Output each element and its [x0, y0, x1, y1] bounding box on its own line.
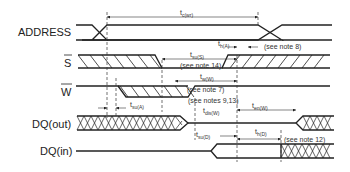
signal-label-w: W [61, 86, 72, 98]
signal-label-dq-out: DQ(out) [32, 118, 71, 130]
label-tsus: tsu(S) [190, 51, 204, 60]
note-8: (see note 8) [264, 43, 301, 51]
note-14: (see note 14) [180, 62, 221, 70]
label-tenw: ten(W) [252, 102, 268, 111]
label-tcwr: tc(wr) [180, 9, 193, 18]
waveform-dq-in [76, 144, 334, 158]
signal-label-dq-in: DQ(in) [40, 145, 72, 157]
label-thd: th(D) [255, 128, 267, 137]
note-7: (see note 7) [187, 86, 224, 94]
label-tsua: tsu(A) [130, 101, 144, 110]
label-tha: th(A) [218, 40, 230, 49]
label-tdisw: tdis(W) [203, 107, 220, 116]
note-12: (see note 12) [284, 136, 325, 144]
label-tsud: tsu(D) [196, 131, 211, 140]
waveform-dq-out [77, 116, 334, 130]
waveform-address [76, 25, 332, 40]
label-tww: tw(W) [200, 73, 214, 82]
timing-diagram: ADDRESS S W DQ(out) DQ(in) [0, 0, 350, 172]
signal-label-s: S [64, 57, 71, 69]
signal-label-address: ADDRESS [18, 26, 71, 38]
note-9-13: (see notes 9,13) [188, 97, 239, 105]
